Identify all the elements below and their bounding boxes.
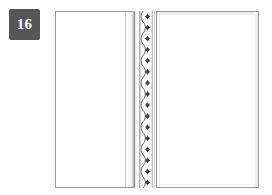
left-page-fore-edge — [125, 12, 133, 187]
book-left-page — [55, 11, 134, 188]
index-badge: 16 — [9, 9, 40, 40]
right-page-edge-shading — [254, 12, 258, 187]
book-spread — [55, 11, 259, 188]
index-badge-number: 16 — [17, 17, 33, 32]
illustration-scene: 16 — [0, 0, 272, 195]
ornament-wave-left — [141, 11, 145, 188]
ornament-svg — [140, 11, 156, 188]
right-page-inner-bevel — [159, 14, 256, 185]
ornamental-border-band — [140, 11, 156, 188]
right-page-top-shading — [157, 12, 258, 16]
ornament-florets — [145, 14, 150, 185]
book-right-page — [156, 11, 259, 188]
